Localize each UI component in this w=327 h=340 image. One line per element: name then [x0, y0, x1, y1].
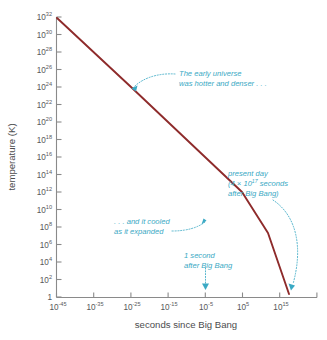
- x-tick-label: 10-5: [199, 301, 213, 312]
- annotation-present-day: present day (4 × 1017 seconds after Big …: [227, 169, 298, 291]
- y-axis-group: 1032 1030 1028 1026 1024 1022 1020 1018: [6, 11, 62, 302]
- y-tick-label: 108: [40, 221, 52, 232]
- x-tick-labels: 10-45 10-35 10-25 10-15 10-5 105 1015: [49, 301, 288, 312]
- y-tick-label: 1012: [37, 186, 52, 197]
- annotation-cooled-expanded-line2: as it expanded: [114, 227, 164, 236]
- y-tick-labels: 1032 1030 1028 1026 1024 1022 1020 1018: [37, 11, 53, 302]
- y-axis-title: temperature (K): [6, 123, 17, 190]
- y-tick-label: 1026: [37, 64, 52, 75]
- annotation-present-day-line1: present day: [227, 169, 269, 178]
- y-tick-label: 1032: [37, 11, 52, 22]
- y-tick-label: 1018: [37, 134, 52, 145]
- annotation-present-day-line3: after Big Bang): [228, 189, 279, 198]
- y-tick-label: 1022: [37, 99, 52, 110]
- annotation-early-universe-line1: The early universe: [179, 69, 241, 78]
- temperature-vs-time-chart: 1032 1030 1028 1026 1024 1022 1020 1018: [0, 0, 327, 340]
- x-tick-label: 10-15: [160, 301, 177, 312]
- annotation-one-second-line1: 1 second: [184, 251, 216, 260]
- temperature-curve: [57, 18, 289, 294]
- leader-arrowhead-present-day: [289, 284, 296, 291]
- y-tick-label: 1016: [37, 151, 52, 162]
- x-tick-marks: [57, 293, 317, 298]
- annotation-cooled-expanded-line1: . . . and it cooled: [114, 217, 170, 226]
- y-tick-label: 104: [40, 256, 52, 267]
- y-tick-label: 102: [40, 274, 52, 285]
- y-tick-marks: [57, 17, 62, 297]
- annotation-one-second-line2: after Big Bang: [184, 261, 233, 270]
- annotation-cooled-expanded: . . . and it cooled as it expanded: [114, 217, 207, 236]
- x-tick-label: 10-35: [86, 301, 103, 312]
- y-tick-label: 1030: [37, 29, 52, 40]
- annotation-early-universe: The early universe was hotter and denser…: [132, 69, 267, 92]
- x-axis-title: seconds since Big Bang: [135, 319, 237, 330]
- leader-line-cooled-expanded: [172, 222, 205, 231]
- leader-line-early-universe: [133, 74, 175, 88]
- x-tick-label: 10-25: [123, 301, 140, 312]
- leader-line-present-day: [273, 200, 298, 284]
- x-tick-label: 1015: [273, 301, 288, 312]
- y-tick-label: 1: [47, 293, 52, 302]
- annotation-one-second: 1 second after Big Bang: [184, 251, 233, 290]
- leader-arrowhead-one-second: [202, 284, 209, 291]
- x-tick-label: 105: [237, 301, 249, 312]
- x-tick-label: 10-45: [49, 301, 66, 312]
- annotation-present-day-line2: (4 × 1017 seconds: [228, 178, 288, 188]
- y-tick-label: 1010: [37, 204, 52, 215]
- annotation-early-universe-line2: was hotter and denser . . .: [179, 79, 267, 88]
- y-tick-label: 1028: [37, 46, 52, 57]
- y-tick-label: 1020: [37, 116, 52, 127]
- leader-arrowhead-cooled-expanded: [202, 219, 207, 225]
- y-tick-label: 1024: [37, 81, 52, 92]
- y-tick-label: 1014: [37, 169, 52, 180]
- x-axis-group: 10-45 10-35 10-25 10-15 10-5 105 1015 se…: [49, 293, 317, 331]
- y-tick-label: 106: [40, 239, 52, 250]
